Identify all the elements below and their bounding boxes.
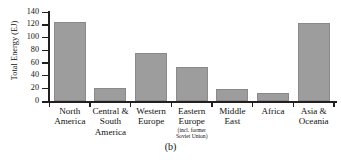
y-tick-80 <box>42 50 49 51</box>
y-tick-140 <box>42 12 49 13</box>
bar <box>54 22 86 101</box>
bar <box>257 93 289 101</box>
y-tick-label-80: 80 <box>17 46 39 54</box>
y-tick-label-40: 40 <box>17 71 39 79</box>
x-category-label: MiddleEast <box>212 106 253 127</box>
y-tick-label-140: 140 <box>17 8 39 16</box>
x-category-label: Central &SouthAmerica <box>90 106 131 137</box>
x-category-label: EasternEurope(incl. formerSoviet Union) <box>171 106 212 140</box>
bar <box>216 89 248 101</box>
bar <box>135 53 167 101</box>
figure-caption: (b) <box>0 141 341 152</box>
y-tick-100 <box>42 37 49 38</box>
x-category-label: WesternEurope <box>131 106 172 127</box>
bar <box>176 67 208 101</box>
x-category-label: NorthAmerica <box>50 106 91 127</box>
bar <box>298 23 330 101</box>
y-tick-label-100: 100 <box>17 33 39 41</box>
x-category-label: Asia &Oceania <box>293 106 334 127</box>
y-tick-20 <box>42 88 49 89</box>
y-tick-40 <box>42 75 49 76</box>
y-tick-label-60: 60 <box>17 59 39 67</box>
y-tick-120 <box>42 24 49 25</box>
bar-chart-figure: Total Energy (EJ) 020406080100120140 Nor… <box>0 0 341 160</box>
y-tick-label-120: 120 <box>17 20 39 28</box>
y-tick-label-0: 0 <box>17 97 39 105</box>
bar <box>94 88 126 101</box>
x-category-label: Africa <box>253 106 294 116</box>
y-tick-label-20: 20 <box>17 84 39 92</box>
y-tick-60 <box>42 62 49 63</box>
